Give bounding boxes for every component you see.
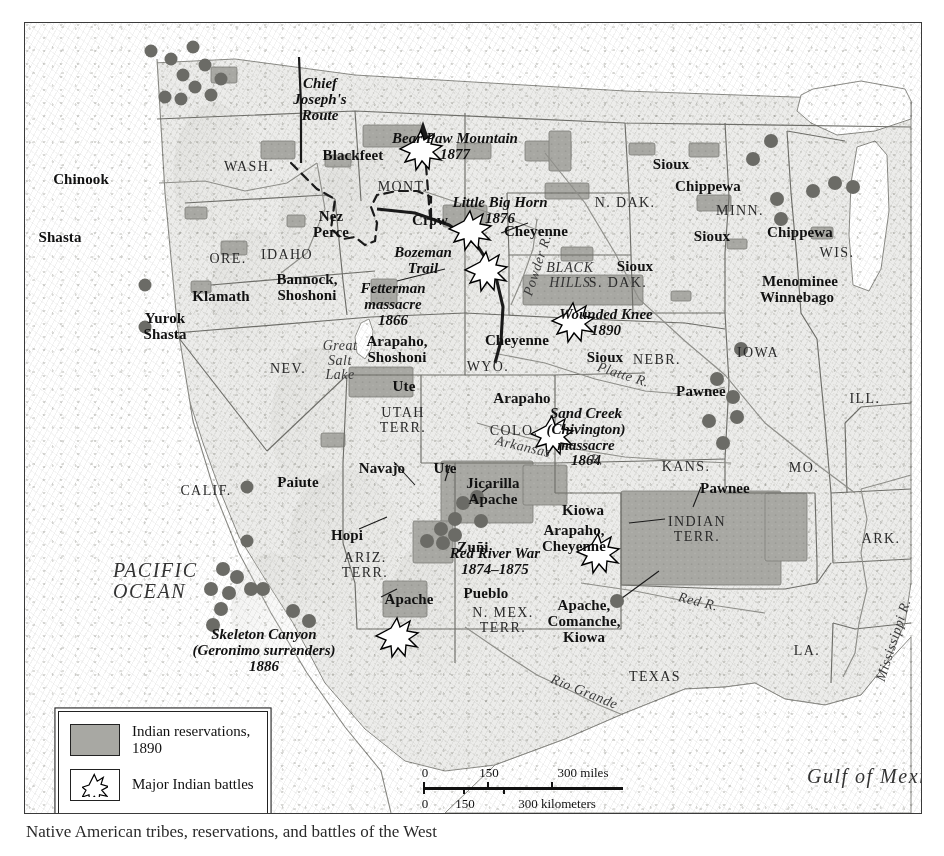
map-legend: Indian reservations, 1890 Major Indian b… [58,711,268,814]
tribes-label-sioux: Sioux [653,157,689,173]
tribes-label-pueblo: Pueblo [464,586,509,602]
states-label-utah-terr: UTAH TERR. [380,406,426,435]
tribes-label-ute: Ute [434,461,457,477]
states-label-ore: ORE. [209,252,246,267]
map-frame: WASH.ORE.IDAHOMONT.N. DAK.MINN.WIS.S. DA… [24,22,922,814]
legend-label-battles: Major Indian battles [132,776,254,793]
states-label-mont: MONT. [378,180,429,195]
battles-label-wounded-knee-1890: Wounded Knee 1890 [559,307,652,339]
tribes-label-arapaho: Arapaho [493,391,550,407]
tribes-label-crow: Crow [412,213,448,229]
tribes-label-sioux: Sioux [617,259,653,275]
waters-label-r: R. [590,452,605,468]
scale-miles-labels: 0 150 300 miles [423,765,623,780]
tribes-label-chippewa: Chippewa [675,179,741,195]
tribes-label-chinook: Chinook [53,172,109,188]
battles-label-sand-creek-chivington-massacre-1864: Sand Creek (Chivington) massacre 1864 [546,406,625,469]
scale-bar-graphic [423,782,623,794]
tribes-label-cheyenne: Cheyenne [485,333,549,349]
tribes-label-menominee: Menominee [762,274,838,290]
tribes-label-arapaho-cheyenne: Arapaho, Cheyenne [542,523,606,555]
battles-label-fetterman-massacre-1866: Fetterman massacre 1866 [360,281,425,328]
map-page: WASH.ORE.IDAHOMONT.N. DAK.MINN.WIS.S. DA… [0,0,944,856]
figure-caption: Native American tribes, reservations, an… [26,822,916,856]
states-label-kans: KANS. [662,460,711,475]
states-label-ark: ARK. [862,532,901,547]
tribes-label-jicarilla-apache: Jicarilla Apache [466,476,519,508]
reservation-swatch [70,724,120,756]
tribes-label-ute: Ute [393,379,416,395]
tribes-label-chippewa: Chippewa [767,225,833,241]
states-label-wis: WIS. [820,246,855,261]
tribes-label-winnebago: Winnebago [760,290,834,306]
routes-label-bozeman-trail: Bozeman Trail [394,245,452,277]
battle-star-icon [82,773,108,797]
states-label-ariz-terr: ARIZ. TERR. [342,551,388,580]
legend-item-battles: Major Indian battles [70,769,267,801]
battles-label-bear-paw-mountain-1877: Bear Paw Mountain 1877 [392,131,518,163]
battles-label-red-river-war-1874-1875: Red River War 1874–1875 [450,546,540,578]
ohio-river [861,475,911,489]
oceans-label-gulf-of-mexico: Gulf of Mexico [807,766,922,787]
tribes-label-arapaho-shoshoni: Arapaho, Shoshoni [366,334,427,366]
states-label-ill: ILL. [850,392,881,407]
legend-label-reservations: Indian reservations, 1890 [132,723,267,758]
states-label-n-dak: N. DAK. [595,196,656,211]
tribes-label-kiowa: Kiowa [562,503,604,519]
states-label-minn: MINN. [716,204,764,219]
states-label-nebr: NEBR. [633,353,681,368]
states-label-iowa: IOWA [737,346,779,361]
states-label-wyo: WYO. [467,360,510,375]
tribes-label-navajo: Navajo [359,461,405,477]
waters-label-great-salt-lake: Great Salt Lake [323,339,358,383]
oceans-label-pacific-ocean: PACIFIC OCEAN [113,560,198,602]
states-label-wash: WASH. [224,160,274,175]
states-label-nev: NEV. [270,362,306,377]
scale-kilometers-labels: 0 150 300 kilometers [423,796,623,811]
states-label-mo: MO. [789,461,819,476]
states-label-calif: CALIF. [180,484,231,499]
tribes-label-klamath: Klamath [192,289,249,305]
tribes-label-bannock-shoshoni: Bannock, Shoshoni [276,272,337,304]
tribes-label-apache-comanche-kiowa: Apache, Comanche, Kiowa [548,598,621,645]
routes-label-chief-joseph-s-route: Chief Joseph's Route [293,76,346,123]
states-label-idaho: IDAHO [261,248,313,263]
tribes-label-blackfeet: Blackfeet [323,148,384,164]
tribes-label-nez-perce: Nez Perce [313,209,349,241]
scale-bar: 0 150 300 miles 0 150 300 kilometers [423,765,623,811]
tribes-label-apache: Apache [385,592,434,608]
states-label-la: LA. [794,644,820,659]
tribes-label-paiute: Paiute [277,475,318,491]
tribes-label-yurok-shasta: Yurok Shasta [143,311,186,343]
states-label-n-mex-terr: N. MEX. TERR. [472,606,534,635]
tribes-label-pawnee: Pawnee [676,384,726,400]
states-label-texas: TEXAS [629,670,681,685]
tribes-label-sioux: Sioux [694,229,730,245]
tribes-label-shasta: Shasta [38,230,81,246]
battle-star-swatch [70,769,120,801]
tribes-label-pawnee: Pawnee [700,481,750,497]
battles-label-little-big-horn-1876: Little Big Horn 1876 [452,195,547,227]
physiographic-label-black-hills: BLACK HILLS [546,261,594,290]
battles-label-skeleton-canyon-geronimo-surrenders-1886: Skeleton Canyon (Geronimo surrenders) 18… [193,627,336,674]
states-label-indian-terr: INDIAN TERR. [668,515,726,544]
tribes-label-hopi: Hopi [331,528,363,544]
states-label-s-dak: S. DAK. [589,276,647,291]
mississippi-river [843,489,867,677]
legend-item-reservations: Indian reservations, 1890 [70,723,267,758]
